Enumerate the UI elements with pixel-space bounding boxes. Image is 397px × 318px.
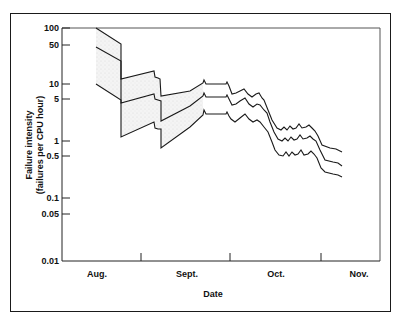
x-axis-title: Date	[203, 289, 223, 299]
x-ticks	[141, 253, 321, 261]
y-tick-label: 0.5	[46, 151, 59, 161]
y-tick-label: 10	[49, 79, 59, 89]
failure-intensity-chart: 100 50 10 5 1 0.5 0.1 0.05 0.01 Failure …	[0, 0, 397, 318]
x-tick-labels: Aug. Sept. Oct. Nov.	[87, 269, 368, 279]
y-ticks	[62, 28, 70, 214]
x-tick-label-nov: Nov.	[350, 269, 369, 279]
y-tick-label: 5	[54, 94, 59, 104]
y-tick-label: 1	[54, 136, 59, 146]
confidence-band	[96, 28, 203, 148]
y-axis-title: Failure intensity (failures per CPU hour…	[24, 96, 45, 195]
y-tick-label: 50	[49, 40, 59, 50]
y-tick-label: 0.05	[41, 209, 59, 219]
svg-text:(failures per CPU hour): (failures per CPU hour)	[35, 96, 45, 195]
x-tick-label-sept: Sept.	[176, 269, 198, 279]
x-tick-label-aug: Aug.	[87, 269, 107, 279]
svg-text:Failure intensity: Failure intensity	[24, 110, 34, 179]
y-tick-label: 0.01	[41, 256, 59, 266]
x-tick-label-oct: Oct.	[267, 269, 285, 279]
y-tick-label: 100	[44, 23, 59, 33]
y-tick-label: 0.1	[46, 193, 59, 203]
